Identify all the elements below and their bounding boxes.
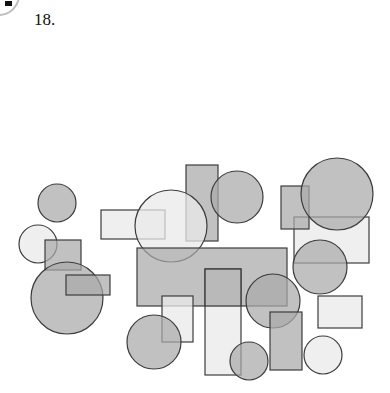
figure-rectangle xyxy=(318,296,362,328)
figure-circle xyxy=(293,240,347,294)
figure-circle xyxy=(38,184,76,222)
figure-rectangle xyxy=(270,312,302,370)
figure-rectangle xyxy=(205,269,241,306)
figure-circle xyxy=(211,171,263,223)
figure-circle xyxy=(31,262,103,334)
figure-circle xyxy=(301,158,373,230)
figure-rectangle xyxy=(66,275,110,295)
figure-circle xyxy=(304,336,342,374)
figure-circle xyxy=(230,342,268,380)
overlapping-shapes-figure xyxy=(0,0,390,393)
figure-circle xyxy=(127,315,181,369)
